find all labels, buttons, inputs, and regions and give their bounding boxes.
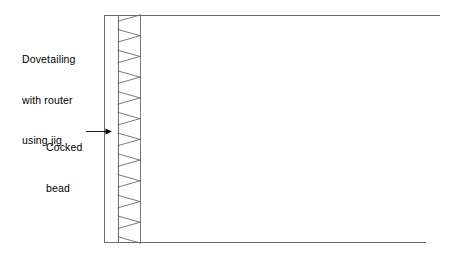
dovetail-pin (118, 181, 141, 202)
dovetail-pin (118, 139, 141, 160)
dovetail-edge (118, 175, 140, 181)
dovetail-edge (118, 119, 140, 125)
dovetail-diagram-figure: Dovetailing with router using jig Cocked… (0, 0, 457, 267)
dovetail-pin (118, 160, 141, 181)
dovetail-edge (118, 77, 140, 83)
label-dovetailing-line-2: with router (22, 94, 76, 108)
dovetail-edge (118, 36, 140, 42)
dovetail-edge (118, 112, 140, 118)
dovetail-pin (118, 56, 141, 77)
dovetail-edge (118, 154, 140, 160)
dovetail-edge (118, 202, 140, 208)
dovetail-pin (118, 98, 141, 119)
dovetail-edge (118, 133, 140, 139)
label-cocked-bead-line-2: bead (46, 182, 83, 196)
leader-arrowhead (106, 129, 113, 135)
dovetail-edge (118, 30, 140, 36)
dovetail-edge (118, 139, 140, 145)
workpiece-panel (104, 15, 440, 243)
label-cocked-bead: Cocked bead (46, 114, 83, 222)
dovetail-edge (118, 160, 140, 166)
dovetail-pin (118, 222, 141, 243)
dovetail-edge (118, 195, 140, 201)
dovetail-edge (118, 222, 140, 228)
label-cocked-bead-line-1: Cocked (46, 141, 83, 155)
dovetail-pin (118, 119, 141, 140)
dovetail-edge (118, 71, 140, 77)
dovetail-edge (118, 181, 140, 187)
dovetail-pin (118, 202, 141, 223)
dovetail-edge (118, 92, 140, 98)
dovetail-pins (118, 15, 141, 243)
dovetail-pin (118, 15, 141, 36)
dovetail-edge (118, 50, 140, 56)
dovetail-pin (118, 77, 141, 98)
dovetail-pin (118, 36, 141, 57)
label-dovetailing-line-1: Dovetailing (22, 53, 76, 67)
dovetail-edge (118, 56, 140, 62)
dovetail-edge (118, 98, 140, 104)
dovetail-edge (118, 216, 140, 222)
cocked-bead-leader (86, 129, 112, 135)
